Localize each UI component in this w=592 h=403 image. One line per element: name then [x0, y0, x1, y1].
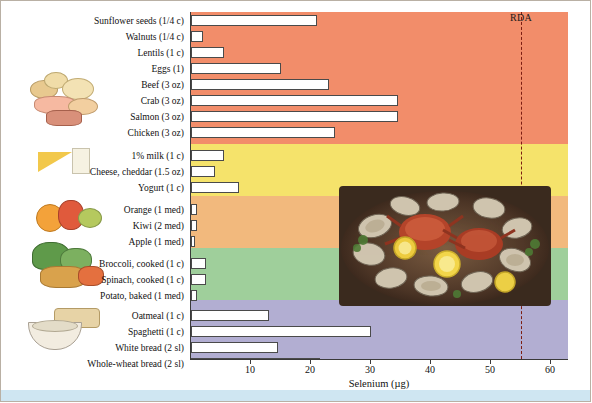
x-tick-label: 30	[365, 364, 375, 375]
x-tick-label: 50	[485, 364, 495, 375]
bar	[191, 274, 206, 285]
category-label: Spaghetti (1 c)	[128, 327, 184, 338]
category-label: Oatmeal (1 c)	[132, 311, 184, 322]
bar	[191, 95, 398, 106]
category-label: Yogurt (1 c)	[138, 183, 184, 194]
category-label: Apple (1 med)	[129, 237, 184, 248]
category-label: 1% milk (1 c)	[131, 151, 184, 162]
x-tick-label: 60	[545, 364, 555, 375]
x-tick-label: 20	[305, 364, 315, 375]
bar	[191, 258, 206, 269]
bar	[191, 111, 398, 122]
group-band-nuts-protein	[191, 12, 568, 144]
category-label: Crab (3 oz)	[141, 96, 184, 107]
category-label: Beef (3 oz)	[141, 80, 184, 91]
category-label: Sunflower seeds (1/4 c)	[94, 16, 184, 27]
chart-figure: Sunflower seeds (1/4 c) Walnuts (1/4 c) …	[0, 0, 592, 403]
category-labels: Sunflower seeds (1/4 c) Walnuts (1/4 c) …	[0, 12, 188, 360]
bar	[191, 15, 317, 26]
category-label: Salmon (3 oz)	[130, 112, 184, 123]
bar	[191, 47, 224, 58]
rda-label: RDA	[510, 12, 532, 23]
bar	[191, 182, 239, 193]
category-label: Potato, baked (1 med)	[100, 291, 184, 302]
bar	[191, 236, 195, 247]
bar	[191, 342, 278, 353]
x-tick-label: 10	[245, 364, 255, 375]
bar	[191, 127, 335, 138]
bar	[191, 79, 329, 90]
bar	[191, 63, 281, 74]
bar	[191, 326, 371, 337]
bar	[191, 204, 197, 215]
bar	[191, 220, 197, 231]
category-label: Kiwi (2 med)	[133, 221, 184, 232]
bar	[191, 31, 203, 42]
bar	[191, 166, 215, 177]
shellfish-photo-svg	[339, 186, 551, 306]
category-label: Spinach, cooked (1 c)	[101, 275, 184, 286]
category-label: Cheese, cheddar (1.5 oz)	[90, 167, 184, 178]
category-label: Lentils (1 c)	[138, 48, 184, 59]
x-axis-title: Selenium (µg)	[190, 378, 568, 389]
category-label: Chicken (3 oz)	[128, 128, 184, 139]
category-label: Eggs (1)	[152, 64, 184, 75]
bar	[191, 290, 197, 301]
category-label: Whole-wheat bread (2 sl)	[87, 359, 184, 370]
shellfish-photo	[339, 186, 551, 306]
category-label: Broccoli, cooked (1 c)	[99, 259, 184, 270]
bottom-color-strip	[1, 390, 590, 401]
bar	[191, 310, 269, 321]
bar	[191, 150, 224, 161]
category-label: Walnuts (1/4 c)	[126, 32, 184, 43]
category-label: White bread (2 sl)	[115, 343, 184, 354]
x-tick-label: 40	[425, 364, 435, 375]
category-label: Orange (1 med)	[124, 205, 184, 216]
plot-area	[190, 12, 568, 360]
